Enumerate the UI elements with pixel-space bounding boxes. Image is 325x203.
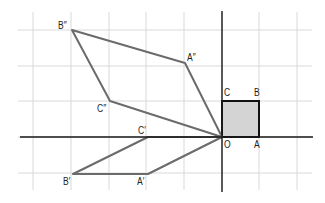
point-label-b: B [254,88,260,98]
point-label-c2: C″ [97,104,106,114]
point-label-b2: B″ [58,21,67,31]
point-label-c: C [224,88,230,98]
point-label-a: A [254,140,260,150]
shapes-layer [72,30,259,174]
point-label-a2: A″ [187,53,196,63]
diagram-stage: OABCA″B″C″A′B′C′ [0,0,325,203]
grid-lines [18,12,312,190]
square-oabc [222,101,259,137]
point-label-o: O [224,140,231,150]
parallelogram-prime [73,137,222,174]
point-label-b1: B′ [63,177,70,187]
point-label-a1: A′ [137,177,144,187]
coordinate-plane [0,0,325,203]
quadrilateral-double-prime [72,30,222,137]
point-label-c1: C′ [138,126,146,136]
